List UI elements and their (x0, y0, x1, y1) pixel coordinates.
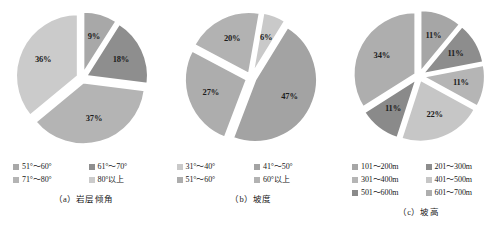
legend-item-label: 60°以上 (263, 176, 290, 184)
legend-item[interactable]: 401～500m (425, 173, 499, 186)
legend-item[interactable]: 101～200m (351, 160, 425, 173)
legend-item[interactable]: 51°～60° (12, 160, 88, 173)
legend-swatch-icon (352, 190, 358, 196)
legend-swatch-icon (177, 177, 183, 183)
pie-slice-label: 27% (203, 87, 219, 97)
legend-item-label: 401～500m (435, 176, 472, 184)
pie-slice-label: 18% (112, 54, 128, 64)
legend-item[interactable]: 201～300m (425, 160, 499, 173)
pie-chart-a-svg: 9%18%37%36% (4, 0, 164, 158)
pie-chart-c: 11%11%11%22%11%34% (339, 0, 499, 158)
legend-item[interactable]: 61°～70° (88, 160, 164, 173)
legend-item-label: 71°～80° (22, 176, 52, 184)
pie-slice-label: 9% (87, 31, 99, 41)
pie-chart-c-svg: 11%11%11%22%11%34% (339, 0, 499, 158)
legend-item[interactable]: 301～400m (351, 173, 425, 186)
legend-item-label: 101～200m (361, 163, 398, 171)
legend-item-label: 601～700m (435, 189, 472, 197)
legend-item[interactable]: 501～600m (351, 186, 425, 199)
legend-item[interactable]: 71°～80° (12, 173, 88, 186)
legend-c: 101～200m201～300m301～400m401～500m501～600m… (335, 160, 502, 199)
legend-item[interactable]: 601～700m (425, 186, 499, 199)
legend-swatch-icon (254, 164, 260, 170)
legend-swatch-icon (426, 190, 432, 196)
chart-panel-a: 9%18%37%36% 51°～60°61°～70°71°～80°80°以上 （… (0, 0, 167, 235)
pie-slice-label: 11% (385, 103, 401, 113)
pie-slice-label: 47% (281, 91, 297, 101)
pie-slice-label: 34% (373, 50, 389, 60)
legend-item[interactable]: 51°～60° (176, 173, 254, 186)
legend-item-label: 80°以上 (98, 176, 125, 184)
pie-slice-label: 36% (34, 54, 50, 64)
legend-item-label: 61°～70° (98, 163, 128, 171)
pie-chart-b-svg: 6%47%27%20% (171, 0, 331, 158)
legend-swatch-icon (13, 177, 19, 183)
caption-c: （c）坡高 (398, 205, 439, 217)
pie-slice-label: 20% (224, 33, 240, 43)
pie-slice-label: 6% (260, 32, 272, 42)
legend-swatch-icon (89, 164, 95, 170)
figure-pie-charts: 9%18%37%36% 51°～60°61°～70°71°～80°80°以上 （… (0, 0, 502, 235)
legend-item-label: 31°～40° (186, 163, 216, 171)
legend-item-label: 41°～50° (263, 163, 293, 171)
chart-panel-b: 6%47%27%20% 31°～40°41°～50°51°～60°60°以上 （… (168, 0, 335, 235)
legend-item[interactable]: 80°以上 (88, 173, 164, 186)
pie-slice-label: 11% (447, 48, 463, 58)
legend-item[interactable]: 60°以上 (253, 173, 331, 186)
legend-item-label: 301～400m (361, 176, 398, 184)
legend-swatch-icon (254, 177, 260, 183)
legend-b: 31°～40°41°～50°51°～60°60°以上 (168, 160, 335, 186)
legend-swatch-icon (89, 177, 95, 183)
pie-slice-label: 11% (452, 77, 468, 87)
legend-swatch-icon (13, 164, 19, 170)
pie-slice-label: 11% (425, 30, 441, 40)
legend-swatch-icon (352, 177, 358, 183)
chart-panel-c: 11%11%11%22%11%34% 101～200m201～300m301～4… (335, 0, 502, 235)
caption-a: （a）岩层倾角 (54, 192, 113, 204)
legend-item[interactable]: 41°～50° (253, 160, 331, 173)
pie-slice-label: 37% (85, 113, 101, 123)
legend-item-label: 201～300m (435, 163, 472, 171)
pie-slice-label: 22% (426, 109, 442, 119)
pie-chart-a: 9%18%37%36% (4, 0, 164, 158)
legend-swatch-icon (426, 177, 432, 183)
legend-item-label: 51°～60° (22, 163, 52, 171)
legend-item-label: 51°～60° (186, 176, 216, 184)
legend-item-label: 501～600m (361, 189, 398, 197)
legend-item[interactable]: 31°～40° (176, 160, 254, 173)
caption-b: （b）坡度 (230, 192, 271, 204)
legend-swatch-icon (426, 164, 432, 170)
legend-swatch-icon (352, 164, 358, 170)
pie-chart-b: 6%47%27%20% (171, 0, 331, 158)
legend-a: 51°～60°61°～70°71°～80°80°以上 (0, 160, 167, 186)
legend-swatch-icon (177, 164, 183, 170)
